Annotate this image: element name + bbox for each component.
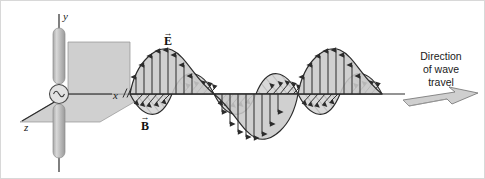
- b-field-label: B: [141, 119, 149, 133]
- figure-canvas: z x y: [0, 0, 485, 179]
- coordinate-system: z x y: [20, 10, 148, 172]
- direction-caption-line1: Direction: [420, 50, 462, 62]
- xz-ground-plane: [20, 94, 148, 122]
- direction-arrow-icon: [403, 87, 478, 106]
- e-field-label-group: → E: [164, 28, 173, 48]
- xy-vertical-plane: [68, 42, 130, 94]
- direction-of-travel-marker: Direction of wave travel: [403, 50, 478, 106]
- antenna-rod-upper: [53, 28, 65, 84]
- b-field-label-group: → B: [141, 112, 150, 133]
- em-wave-figure: z x y: [0, 0, 485, 179]
- antenna-rod-lower: [53, 104, 65, 158]
- direction-caption-line3: travel: [428, 76, 454, 88]
- e-field-label: E: [164, 34, 172, 48]
- x-axis-label: x: [112, 89, 118, 101]
- z-axis-label: z: [23, 121, 29, 133]
- direction-caption-line2: of wave: [423, 63, 459, 75]
- y-axis-label: y: [62, 10, 68, 22]
